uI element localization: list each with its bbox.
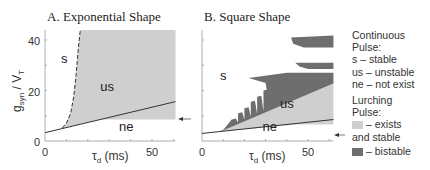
legend-lurching-title-2: Pulse: [352, 106, 430, 118]
legend-continuous-title-2: Pulse: [352, 41, 430, 53]
panel-a: A. Exponential Shape susne 40 20 0 0 50 … [10, 9, 191, 165]
legend-item-exists-stable: – exists [352, 118, 430, 130]
legend-continuous-title-1: Continuous [352, 29, 430, 41]
panel-a-xtick-50: 50 [146, 146, 158, 158]
panel-a-ylabel: gsyn / VT [10, 70, 26, 112]
legend-item-unstable: us – unstable [352, 66, 430, 78]
panel-b-xlabel-text: τd (ms) [249, 149, 286, 165]
legend-continuous: Continuous Pulse: s – stable us – unstab… [352, 29, 430, 90]
panel-a-arrow [178, 117, 191, 121]
legend-item-not-exist: ne – not exist [352, 78, 430, 90]
panel-a-xtick-0: 0 [42, 146, 48, 158]
panel-a-region-label-ne: ne [119, 119, 133, 134]
panel-b-arrow [334, 133, 345, 137]
panel-a-ytick-0: 0 [34, 136, 40, 148]
panel-a-title: A. Exponential Shape [47, 9, 161, 24]
panel-b-title: B. Square Shape [204, 9, 291, 24]
panel-b-xlabel: τd (ms) [249, 149, 286, 165]
legend-lurching: Lurching Pulse: – exists and stable – bi… [352, 94, 430, 157]
panel-a-ytick-40: 40 [28, 35, 40, 47]
panel-a-ylabel-text: gsyn / VT [10, 70, 26, 112]
panel-a-region-label-us: us [100, 79, 114, 94]
panel-b-xtick-50: 50 [302, 146, 314, 158]
legend-item-bistable: – bistable [352, 145, 430, 157]
panel-b: B. Square Shape susne 0 50 τd (ms) [199, 9, 345, 165]
panel-b-bistable-band [295, 63, 333, 69]
light-swatch-icon [352, 121, 363, 129]
legend-bistable-label: – bistable [366, 145, 411, 157]
panel-b-xtick-0: 0 [199, 146, 205, 158]
panel-b-region-label-us: us [280, 96, 294, 111]
legend-lurching-title-1: Lurching [352, 94, 430, 106]
panel-a-ytick-20: 20 [28, 86, 40, 98]
panel-a-region-label-s: s [61, 51, 68, 66]
panel-b-plot: susne [202, 30, 333, 141]
panel-b-bistable-band [291, 35, 333, 47]
legend-item-stable: s – stable [352, 53, 430, 65]
panel-a-xlabel: τd (ms) [92, 149, 129, 165]
dark-swatch-icon [352, 148, 363, 156]
legend: Continuous Pulse: s – stable us – unstab… [352, 29, 430, 161]
panel-b-region-label-s: s [220, 68, 227, 83]
panel-a-xlabel-text: τd (ms) [92, 149, 129, 165]
legend-exists-label: – exists [366, 118, 402, 130]
panel-a-plot: susne [45, 30, 176, 141]
panel-b-region-label-ne: ne [263, 119, 277, 134]
legend-item-exists-stable-2: and stable [352, 131, 430, 143]
